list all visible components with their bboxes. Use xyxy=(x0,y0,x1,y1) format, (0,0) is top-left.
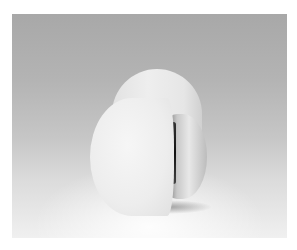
photograph xyxy=(12,14,287,238)
cylinder-front-face xyxy=(90,98,174,216)
